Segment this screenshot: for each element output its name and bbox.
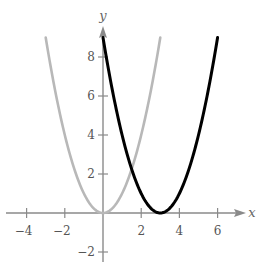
x-axis-label: x bbox=[248, 205, 256, 220]
parabola-black-curve bbox=[103, 38, 218, 214]
y-axis-label: y bbox=[98, 8, 107, 23]
y-tick-label: 2 bbox=[87, 167, 95, 181]
x-tick-label: 6 bbox=[214, 224, 222, 238]
x-tick-label: −2 bbox=[53, 224, 71, 238]
parabola-chart: −4−2246−22468xy bbox=[0, 0, 258, 265]
curves bbox=[46, 38, 218, 214]
y-tick-label: 6 bbox=[87, 89, 95, 103]
tick-labels: −4−2246−22468xy bbox=[15, 8, 257, 259]
y-tick-label: −2 bbox=[77, 245, 95, 259]
y-tick-label: 4 bbox=[87, 128, 95, 142]
axes bbox=[6, 26, 246, 262]
x-tick-label: −4 bbox=[15, 224, 33, 238]
y-tick-label: 8 bbox=[87, 50, 95, 64]
x-tick-label: 4 bbox=[176, 224, 184, 238]
x-tick-label: 2 bbox=[137, 224, 145, 238]
